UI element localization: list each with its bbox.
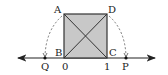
label-p: P bbox=[122, 61, 129, 72]
label-c: C bbox=[109, 47, 117, 58]
point-q bbox=[43, 56, 46, 59]
tick-label-zero: 0 bbox=[62, 61, 68, 72]
point-p bbox=[124, 56, 127, 59]
label-q: Q bbox=[41, 61, 49, 72]
label-d: D bbox=[108, 4, 116, 15]
tick-label-one: 1 bbox=[104, 61, 110, 72]
label-a: A bbox=[53, 4, 62, 15]
diagram-canvas: A D B C Q 0 1 P bbox=[0, 0, 168, 75]
label-b: B bbox=[55, 47, 62, 58]
